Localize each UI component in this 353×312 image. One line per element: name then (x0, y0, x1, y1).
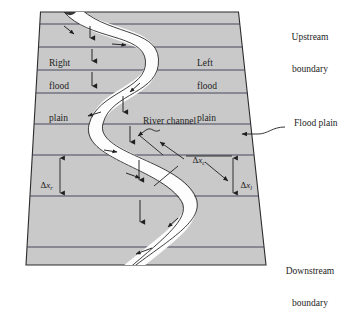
left-flood-plain-label-cont: flood plain (197, 60, 217, 134)
flood-plain-label: Flood plain (294, 118, 338, 129)
delta-x-left-label: Δxl (236, 170, 252, 191)
downstream-boundary-label: Downstream boundary (267, 245, 353, 312)
left-flood-plain-line3: plain (197, 113, 217, 124)
river-channel-label: River channel (143, 116, 196, 127)
downstream-boundary-line1: Downstream (267, 266, 353, 277)
downstream-boundary-line2: boundary (267, 298, 353, 309)
left-flood-plain-line2: flood (197, 81, 217, 92)
upstream-boundary-line2: boundary (271, 64, 349, 75)
subscript-left: l (250, 184, 252, 191)
right-flood-plain-line3: plain (49, 113, 69, 124)
upstream-boundary-line1: Upstream (271, 32, 349, 43)
subscript-channel: c (202, 159, 205, 166)
delta-x-right-label: Δxr (36, 170, 53, 191)
upstream-boundary-label: Upstream boundary (271, 11, 349, 85)
right-flood-plain-line2: flood (49, 81, 69, 92)
subscript-right: r (50, 184, 53, 191)
delta-x-channel-label: Δxc (188, 145, 205, 166)
right-flood-plain-label-cont: flood plain (49, 60, 69, 134)
